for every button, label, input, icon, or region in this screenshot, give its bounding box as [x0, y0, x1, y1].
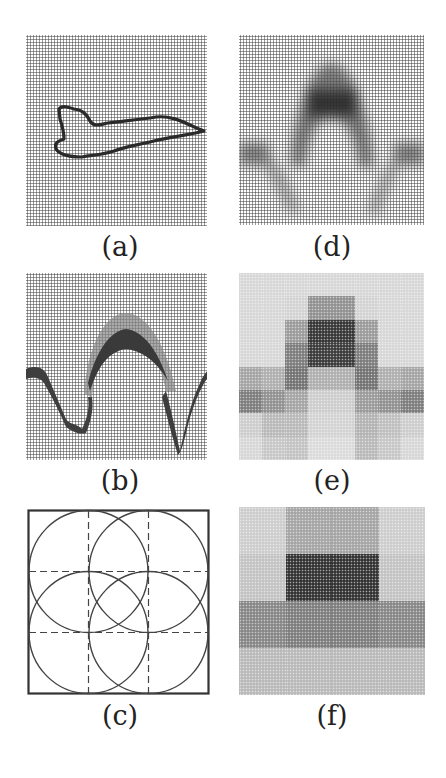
grid-cell — [378, 390, 401, 413]
grid-cell — [378, 413, 401, 436]
grid-cell — [308, 343, 331, 366]
grid-cell — [239, 507, 286, 554]
grid-cell — [308, 437, 331, 460]
grid-cell — [262, 273, 285, 296]
grid-cell — [285, 343, 308, 366]
grid-cell — [308, 273, 331, 296]
ellipse-grid-diagram — [27, 509, 210, 695]
grid-cell — [239, 320, 262, 343]
grid-cell — [355, 367, 378, 390]
grid-cell — [239, 367, 262, 390]
grid-cell — [332, 437, 355, 460]
grid-cell — [262, 437, 285, 460]
grid-cell — [285, 296, 308, 319]
panel-label-d: (d) — [272, 232, 392, 262]
grid-cell — [308, 390, 331, 413]
grid-cell — [379, 601, 426, 648]
blurred-arch — [239, 35, 424, 225]
grid-cell — [355, 296, 378, 319]
grid-cell — [401, 390, 424, 413]
grid-cell — [379, 507, 426, 554]
grid-cell — [239, 413, 262, 436]
grid-cell — [332, 601, 379, 648]
grid-cell — [285, 273, 308, 296]
grid-cell — [332, 507, 379, 554]
grid-cell — [262, 296, 285, 319]
grid-cell — [262, 367, 285, 390]
grid-cell — [332, 367, 355, 390]
grid-cell — [379, 648, 426, 695]
grid-cell — [401, 437, 424, 460]
grid-cell — [332, 413, 355, 436]
grid-cell — [239, 343, 262, 366]
grid-cell — [401, 273, 424, 296]
grid-cell — [308, 413, 331, 436]
grid-cell — [401, 296, 424, 319]
grid-cell — [262, 413, 285, 436]
airplane-outline — [26, 35, 207, 226]
panel-d-blurred — [239, 35, 424, 225]
grid-cell — [332, 648, 379, 695]
grid-cell — [378, 320, 401, 343]
grid-cell — [285, 390, 308, 413]
grid-cell — [285, 367, 308, 390]
grid-cell — [355, 437, 378, 460]
grid-cell — [332, 554, 379, 601]
panel-e-8x8-blocks — [239, 273, 424, 460]
grid-cell — [332, 343, 355, 366]
block-grid-8x8 — [239, 273, 424, 460]
grid-cell — [239, 296, 262, 319]
grid-cell — [355, 413, 378, 436]
grid-cell — [239, 273, 262, 296]
grid-cell — [308, 367, 331, 390]
grid-cell — [332, 273, 355, 296]
grid-cell — [378, 437, 401, 460]
grid-cell — [286, 601, 333, 648]
panel-a-airplane-edges — [26, 35, 207, 226]
grid-cell — [286, 507, 333, 554]
panel-label-f: (f) — [272, 701, 392, 731]
grid-cell — [286, 554, 333, 601]
grid-cell — [239, 648, 286, 695]
grid-cell — [285, 437, 308, 460]
panel-label-e: (e) — [272, 466, 392, 496]
grid-cell — [239, 437, 262, 460]
grid-cell — [285, 320, 308, 343]
panel-label-c: (c) — [60, 701, 180, 731]
panel-label-a: (a) — [60, 232, 180, 262]
grid-cell — [239, 390, 262, 413]
grid-cell — [355, 343, 378, 366]
grid-cell — [239, 601, 286, 648]
grid-cell — [262, 390, 285, 413]
grid-cell — [332, 390, 355, 413]
panel-c-grid-ellipses — [27, 509, 210, 695]
grid-cell — [401, 367, 424, 390]
grid-cell — [308, 296, 331, 319]
grid-cell — [378, 343, 401, 366]
grid-cell — [378, 367, 401, 390]
grid-cell — [332, 296, 355, 319]
grid-cell — [355, 390, 378, 413]
grid-cell — [285, 413, 308, 436]
grid-cell — [262, 320, 285, 343]
grid-cell — [308, 320, 331, 343]
grid-cell — [332, 320, 355, 343]
grid-cell — [378, 296, 401, 319]
grid-cell — [239, 554, 286, 601]
grid-cell — [355, 273, 378, 296]
panel-b-arch — [26, 273, 207, 460]
panel-label-b: (b) — [60, 466, 180, 496]
grid-cell — [401, 413, 424, 436]
grid-cell — [401, 320, 424, 343]
grid-cell — [378, 273, 401, 296]
arch-band — [26, 273, 207, 460]
grid-cell — [379, 554, 426, 601]
block-grid-4x4 — [239, 507, 425, 695]
panel-f-4x4-blocks — [239, 507, 425, 695]
grid-cell — [355, 320, 378, 343]
grid-cell — [286, 648, 333, 695]
grid-cell — [262, 343, 285, 366]
grid-cell — [401, 343, 424, 366]
